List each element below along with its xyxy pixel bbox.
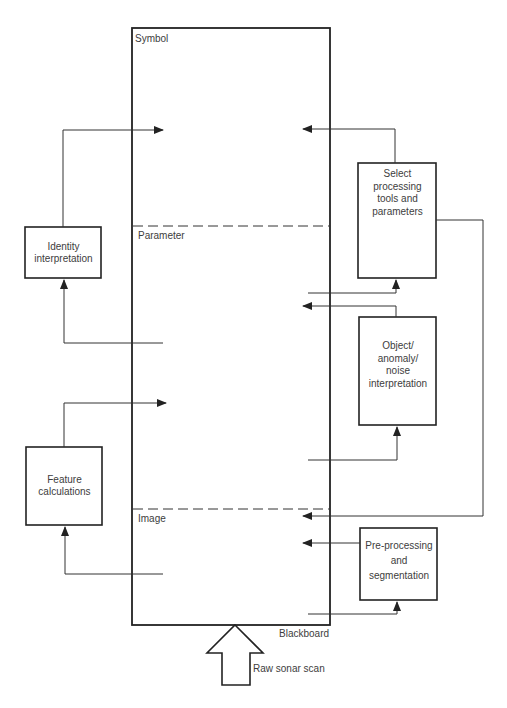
arrow-image-to-preproc (308, 602, 397, 614)
raw-sonar-scan-label: Raw sonar scan (253, 663, 325, 675)
arrow-select-to-symbol (303, 129, 395, 163)
object-interpretation-text: Object/ anomaly/ noise interpretation (359, 340, 437, 396)
parameter-level-label: Parameter (138, 230, 185, 242)
blackboard-panel (132, 28, 330, 625)
arrow-parameter-to-identity (64, 280, 163, 343)
select-tools-text: Select processing tools and parameters (358, 168, 437, 228)
raw-scan-input-arrow (207, 625, 263, 685)
arrow-feature-to-parameter (64, 403, 166, 447)
arrow-object-to-parameter (303, 306, 396, 317)
arrow-image-to-feature (65, 527, 163, 574)
image-level-label: Image (138, 513, 166, 525)
symbol-level-label: Symbol (135, 33, 168, 45)
identity-interpretation-text: Identity interpretation (25, 227, 102, 279)
arrow-identity-to-symbol (63, 130, 163, 227)
arrow-parameter-to-select (308, 280, 396, 293)
blackboard-label: Blackboard (279, 628, 329, 640)
preprocessing-text: Pre-processing and segmentation (360, 538, 438, 588)
feature-calculations-text: Feature calculations (26, 447, 103, 525)
arrow-parameter-to-object (308, 427, 397, 460)
